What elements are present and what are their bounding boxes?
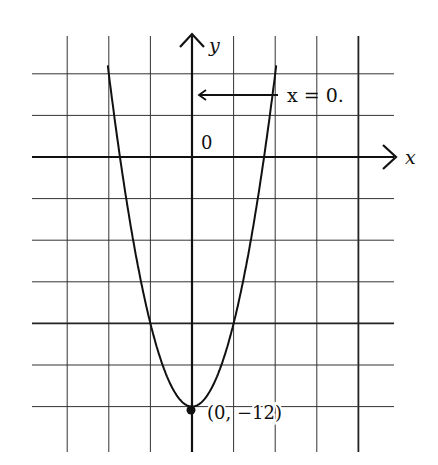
vertex-label: (0, −12): [207, 402, 282, 423]
origin-label: 0: [201, 132, 212, 153]
annotation-arrow: [199, 90, 278, 100]
parabola-chart: y x 0 x = 0. (0, −12): [0, 0, 438, 465]
vertex-point: [187, 406, 196, 415]
axis-annotation-label: x = 0.: [287, 84, 344, 106]
x-axis-label: x: [405, 146, 416, 168]
y-axis-label: y: [208, 34, 220, 56]
